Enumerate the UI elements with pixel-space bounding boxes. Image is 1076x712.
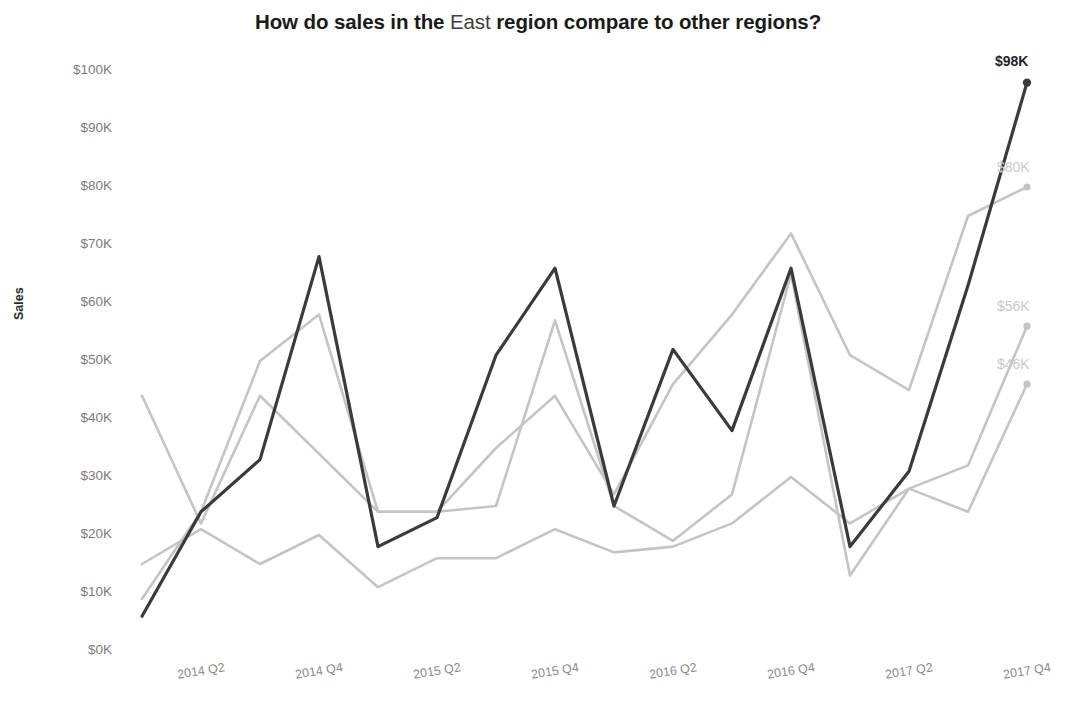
series-endpoint-marker [1023,381,1030,388]
series-endpoint-marker [1023,183,1030,190]
plot-area [0,0,1076,712]
end-label-other-region-a: $80K [997,159,1030,175]
sales-line-chart: How do sales in the East region compare … [0,0,1076,712]
end-label-east: $98K [995,53,1028,69]
series-line-other-region-b [142,274,1027,576]
series-endpoint-marker [1023,78,1031,86]
end-label-other-region-b: $56K [997,298,1030,314]
series-endpoint-marker [1023,323,1030,330]
end-label-other-region-c: $46K [997,356,1030,372]
